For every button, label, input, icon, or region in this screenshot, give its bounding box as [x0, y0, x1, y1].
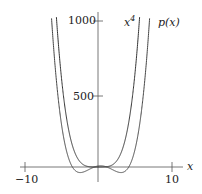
x-axis-label: x	[187, 160, 194, 173]
y-tick-label-1000: 1000	[68, 14, 96, 27]
x4-label: x4	[124, 14, 135, 29]
x4-label-sup: 4	[129, 14, 135, 23]
p-label: p(x)	[158, 16, 180, 29]
y-tick-label-500: 500	[73, 90, 94, 103]
curve-p	[52, 18, 150, 172]
x-tick-label-10: 10	[165, 173, 179, 186]
x-tick-label-neg10: −10	[15, 173, 38, 186]
plot: −10 10 1000 500 x x4 p(x)	[0, 0, 202, 194]
